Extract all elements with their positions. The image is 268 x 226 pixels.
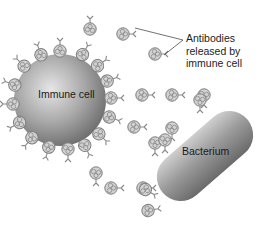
callout-line-1: Antibodies [186, 32, 242, 45]
callout-line-3: immune cell [186, 57, 242, 70]
bacterium-label: Bacterium [182, 145, 229, 157]
antibodies-callout-label: Antibodies released by immune cell [186, 32, 242, 70]
immune-cell-label: Immune cell [38, 88, 95, 100]
callout-line-2: released by [186, 45, 242, 58]
